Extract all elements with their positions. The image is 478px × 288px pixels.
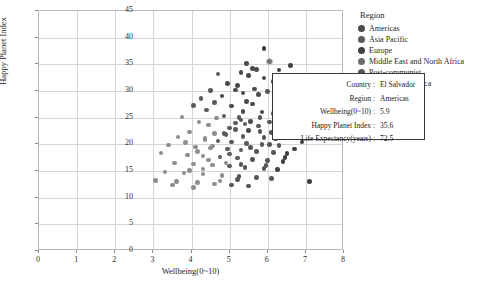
data-point[interactable] [206,158,211,163]
data-point[interactable] [292,147,297,152]
data-point[interactable] [182,171,187,176]
data-point[interactable] [185,153,190,158]
data-point[interactable] [170,183,175,188]
data-point[interactable] [262,135,267,140]
data-point[interactable] [201,172,206,177]
data-point[interactable] [216,139,221,144]
data-point[interactable] [227,126,232,131]
data-point[interactable] [218,179,223,184]
legend-item-middle-east-and-north-africa[interactable]: Middle East and North Africa [358,56,478,67]
data-point[interactable] [246,73,251,78]
data-point[interactable] [271,150,276,155]
data-point[interactable] [241,109,246,114]
data-point[interactable] [216,72,221,77]
data-point[interactable] [235,177,240,182]
data-point[interactable] [258,129,263,134]
data-point[interactable] [260,110,265,115]
data-point[interactable] [191,162,196,167]
data-point[interactable] [243,122,248,127]
data-point[interactable] [246,184,251,189]
data-point[interactable] [212,100,217,105]
data-point[interactable] [191,185,196,190]
data-point[interactable] [252,87,257,92]
data-point[interactable] [229,104,234,109]
data-point[interactable] [258,115,263,120]
highlighted-data-point[interactable] [266,58,273,65]
data-point[interactable] [254,67,259,72]
data-point[interactable] [176,135,181,140]
data-point[interactable] [244,61,249,66]
data-point[interactable] [265,158,270,163]
data-point[interactable] [235,156,240,161]
data-point[interactable] [254,149,259,154]
data-point[interactable] [262,46,267,51]
data-point[interactable] [265,89,270,94]
data-point[interactable] [264,163,269,168]
data-point[interactable] [241,134,246,139]
data-point[interactable] [275,167,280,172]
data-point[interactable] [288,63,293,68]
data-point[interactable] [180,115,185,120]
data-point[interactable] [233,127,238,132]
data-point[interactable] [262,76,267,81]
data-point[interactable] [256,124,261,129]
data-point[interactable] [277,68,282,73]
data-point[interactable] [239,70,244,75]
legend-item-label: Middle East and North Africa [369,57,464,66]
data-point[interactable] [166,143,171,148]
data-point[interactable] [172,161,177,166]
legend-item-americas[interactable]: Americas [358,23,478,34]
data-point[interactable] [210,163,215,168]
data-point[interactable] [227,152,232,157]
data-point[interactable] [187,168,192,173]
data-point[interactable] [212,182,217,187]
data-point[interactable] [191,103,196,108]
data-point[interactable] [204,108,209,113]
data-point[interactable] [243,165,248,170]
legend-item-europe[interactable]: Europe [358,45,478,56]
tooltip-field-label: Life Expectancy(years) : [273,132,375,146]
data-point[interactable] [250,157,255,162]
legend-item-asia-pacific[interactable]: Asia Pacific [358,34,478,45]
data-point[interactable] [206,123,211,128]
data-point[interactable] [229,183,234,188]
data-point[interactable] [220,94,225,99]
data-point[interactable] [250,102,255,107]
data-point[interactable] [256,92,261,97]
data-point[interactable] [201,154,206,159]
data-point[interactable] [248,119,253,124]
data-point[interactable] [239,118,244,123]
data-point[interactable] [269,176,274,181]
data-point[interactable] [208,88,213,93]
data-point[interactable] [246,128,251,133]
data-point[interactable] [195,149,200,154]
data-point[interactable] [163,170,168,175]
data-point[interactable] [239,148,244,153]
data-point[interactable] [220,173,225,178]
data-point[interactable] [254,175,259,180]
data-point[interactable] [227,164,232,169]
data-point[interactable] [203,136,208,141]
data-point[interactable] [199,96,204,101]
x-tick-mark [191,250,192,253]
data-point[interactable] [233,121,238,126]
data-point[interactable] [212,131,217,136]
data-point[interactable] [195,180,200,185]
data-point[interactable] [267,142,272,147]
data-point[interactable] [244,99,249,104]
data-point[interactable] [159,151,164,156]
data-point[interactable] [210,144,215,149]
data-point[interactable] [233,88,238,93]
data-point[interactable] [248,145,253,150]
data-point[interactable] [197,120,202,125]
data-point[interactable] [153,178,158,183]
y-tick-label: 20 [107,139,133,147]
data-point[interactable] [260,142,265,147]
data-point[interactable] [241,91,246,96]
data-point[interactable] [307,179,312,184]
data-point[interactable] [225,81,230,86]
data-point[interactable] [283,155,288,160]
data-point[interactable] [222,131,227,136]
data-point[interactable] [214,116,219,121]
data-point[interactable] [218,155,223,160]
